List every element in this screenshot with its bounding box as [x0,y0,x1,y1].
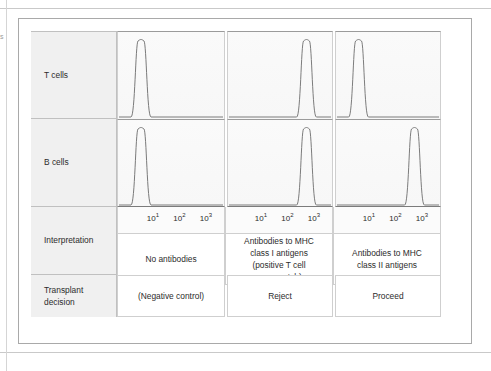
figure-grid: T cells B cells [31,31,461,333]
page-edge-bottom-rule [0,352,491,353]
row-label-t-cells-text: T cells [44,69,68,81]
figure-frame: T cells B cells [18,18,472,344]
x-axis-ticks-column-2: 101 102 103 [226,207,332,233]
histogram-curve-t2 [227,31,333,119]
histogram-curve-t3 [335,31,441,119]
interp-c3-l2: class II antigens [357,260,417,270]
x-tick-10e1-col2: 101 [255,213,267,225]
interp-c2-l1: Antibodies to MHC [244,236,314,246]
histogram-curve-b2 [227,119,333,207]
margin-text-fragment: s [0,32,8,42]
decision-column-2: Reject [227,275,333,317]
interp-c2-l3: (positive T cell [252,260,305,270]
x-axis-column-3: 101 102 103 [333,207,441,233]
row-label-b-cells: B cells [31,119,117,207]
plot-t-cells-column-3 [335,31,441,119]
plot-b-cells-column-1 [117,119,225,207]
histogram-curve-b3 [335,119,441,207]
x-tick-10e1-col3: 101 [363,213,375,225]
x-tick-10e3-col2: 103 [308,213,320,225]
histogram-curve-t1 [117,31,225,119]
plot-b-cells-column-3 [335,119,441,207]
plot-t-cells-column-1 [117,31,225,119]
axis-and-interpretation-column-2: 101 102 103 Antibodies to MHC class I an… [225,207,333,275]
axis-and-interpretation-column-1: 101 102 103 No antibodies [117,207,225,275]
page-edge-left-rule [6,0,7,371]
x-axis-column-2: 101 102 103 [225,207,333,233]
decision-column-3-text: Proceed [372,290,403,302]
decision-column-1: (Negative control) [117,275,225,317]
axis-and-interpretation-column-3: 101 102 103 Antibodies to MHC class II a… [333,207,441,275]
row-label-b-cells-text: B cells [44,156,69,168]
x-tick-10e2-col2: 102 [281,213,293,225]
x-tick-10e3-col3: 103 [416,213,428,225]
x-tick-10e2-col1: 102 [173,213,185,225]
x-axis-ticks-column-3: 101 102 103 [334,207,440,233]
interpretation-column-3-text: Antibodies to MHC class II antigens [352,247,422,271]
x-axis-ticks-column-1: 101 102 103 [118,207,224,233]
row-label-transplant-decision-text: Transplant decision [44,284,83,308]
plot-t-cells-column-2 [227,31,333,119]
decision-column-2-text: Reject [268,290,292,302]
plot-b-cells-column-2 [227,119,333,207]
x-axis-column-1: 101 102 103 [117,207,225,233]
histogram-curve-b1 [117,119,225,207]
row-label-t-cells: T cells [31,31,117,119]
row-label-interpretation: Interpretation [31,207,117,275]
transplant-label-l1: Transplant [44,285,83,295]
decision-column-3: Proceed [335,275,441,317]
transplant-label-l2: decision [44,297,75,307]
row-label-interpretation-text: Interpretation [44,234,93,246]
interp-c3-l1: Antibodies to MHC [352,248,422,258]
interp-c2-l2: class I antigens [250,248,308,258]
x-tick-10e3-col1: 103 [200,213,212,225]
decision-column-1-text: (Negative control) [138,290,204,302]
x-tick-10e2-col3: 102 [389,213,401,225]
interpretation-column-1-text: No antibodies [145,253,196,265]
row-label-transplant-decision: Transplant decision [31,275,117,317]
page-edge-top-rule [0,8,491,9]
x-tick-10e1-col1: 101 [147,213,159,225]
